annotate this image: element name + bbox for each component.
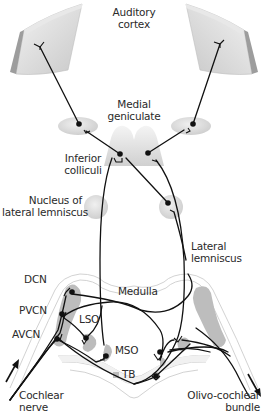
label-line: lateral lemniscus bbox=[2, 206, 82, 218]
label-line: Nucleus of bbox=[2, 194, 82, 206]
label-avcn: AVCN bbox=[12, 328, 40, 340]
label-medulla: Medulla bbox=[118, 285, 158, 297]
label-medial-geniculate: Medial geniculate bbox=[100, 98, 168, 122]
label-line: colliculi bbox=[58, 164, 108, 176]
label-tb: TB bbox=[122, 368, 135, 380]
label-line: Olivo-cochlear bbox=[178, 389, 260, 401]
label-line: bundle bbox=[178, 401, 260, 413]
label-line: nerve bbox=[19, 401, 64, 413]
label-inferior-colliculi: Inferior colliculi bbox=[58, 152, 108, 176]
label-line: Medial bbox=[100, 98, 168, 110]
label-olivocochlear-bundle: Olivo-cochlear bundle bbox=[178, 389, 260, 413]
medial-geniculate-right bbox=[171, 117, 211, 135]
label-cochlear-nerve: Cochlear nerve bbox=[19, 389, 64, 413]
label-nucleus-lateral-lemniscus: Nucleus of lateral lemniscus bbox=[2, 194, 82, 218]
label-auditory-cortex: Auditory cortex bbox=[104, 6, 164, 30]
label-line: Cochlear bbox=[19, 389, 64, 401]
label-pvcn: PVCN bbox=[19, 304, 47, 316]
label-mso: MSO bbox=[115, 344, 138, 356]
inferior-colliculi bbox=[104, 126, 164, 166]
label-dcn: DCN bbox=[24, 273, 47, 285]
label-line: Inferior bbox=[58, 152, 108, 164]
mso-left bbox=[103, 344, 112, 362]
label-line: Lateral bbox=[191, 240, 242, 252]
auditory-pathway-diagram: Auditory cortex Medial geniculate Inferi… bbox=[0, 0, 268, 418]
label-line: Auditory bbox=[104, 6, 164, 18]
label-line: geniculate bbox=[100, 110, 168, 122]
nll-right bbox=[159, 195, 183, 219]
label-line: lemniscus bbox=[191, 252, 242, 264]
label-line: cortex bbox=[104, 18, 164, 30]
auditory-cortex-left bbox=[10, 4, 82, 75]
label-lateral-lemniscus: Lateral lemniscus bbox=[191, 240, 242, 264]
auditory-cortex-right bbox=[186, 4, 258, 75]
label-lso: LSO bbox=[79, 313, 99, 325]
